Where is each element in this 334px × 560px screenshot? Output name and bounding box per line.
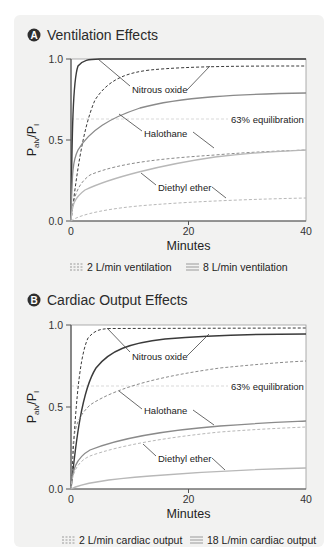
- panel-b-title: Cardiac Output Effects: [47, 292, 188, 308]
- panel-a-x-axis-title: Minutes: [167, 239, 211, 253]
- legend-solid-icon: [190, 537, 203, 543]
- legend-dashed-icon: [70, 264, 83, 270]
- panel-a-ytick-label-05: 0.5: [48, 134, 63, 146]
- figure-svg: A Ventilation Effects 63% equilibration …: [0, 0, 334, 560]
- panel-b-label-nitrous-oxide: Nitrous oxide: [132, 351, 187, 362]
- panel-b-legend: 2 L/min cardiac output 18 L/min cardiac …: [62, 534, 316, 546]
- panel-a-legend-solid-label: 8 L/min ventilation: [203, 261, 288, 273]
- legend-dashed-icon: [62, 537, 75, 543]
- panel-b-ytick-label-05: 0.5: [48, 401, 63, 413]
- panel-b-xtick-label-0: 0: [68, 493, 74, 505]
- badge-a-letter: A: [30, 30, 37, 41]
- panel-b-legend-dashed-label: 2 L/min cardiac output: [79, 534, 182, 546]
- panel-a-label-nitrous-oxide: Nitrous oxide: [132, 84, 187, 95]
- panel-b-label-diethyl-ether: Diethyl ether: [158, 453, 211, 464]
- panel-a-y-axis-title: Palv/PI: [25, 124, 41, 157]
- panel-b-header: B Cardiac Output Effects: [28, 292, 188, 308]
- panel-b-xtick-label-40: 40: [300, 493, 312, 505]
- panel-a-legend-dashed-label: 2 L/min ventilation: [87, 261, 172, 273]
- panel-a-header: A Ventilation Effects: [28, 27, 159, 43]
- panel-a-title: Ventilation Effects: [47, 27, 158, 43]
- svg-text:Palv/PI: Palv/PI: [25, 391, 41, 424]
- svg-text:Palv/PI: Palv/PI: [25, 124, 41, 157]
- panel-b-label-halothane: Halothane: [144, 405, 187, 416]
- panel-a-legend: 2 L/min ventilation 8 L/min ventilation: [70, 261, 288, 273]
- panel-b-ytick-label-0: 0.0: [48, 483, 63, 495]
- panel-a-label-halothane: Halothane: [144, 128, 187, 139]
- panel-a-xtick-label-40: 40: [300, 225, 312, 237]
- panel-a-label-diethyl-ether: Diethyl ether: [158, 182, 211, 193]
- panel-a-ytick-label-1: 1.0: [48, 53, 63, 65]
- panel-a-xtick-label-0: 0: [68, 225, 74, 237]
- panel-a-plot-area: [71, 59, 306, 221]
- panel-a-xtick-label-20: 20: [183, 225, 195, 237]
- panel-b-y-axis-title: Palv/PI: [25, 391, 41, 424]
- panel-b-ytick-label-1: 1.0: [48, 319, 63, 331]
- panel-a-equilibration-label: 63% equilibration: [231, 114, 304, 125]
- panel-b-xtick-label-20: 20: [183, 493, 195, 505]
- panel-a: A Ventilation Effects 63% equilibration …: [25, 27, 312, 273]
- panel-a-ytick-label-0: 0.0: [48, 215, 63, 227]
- panel-b-plot-area: [71, 325, 306, 489]
- panel-b-x-axis-title: Minutes: [167, 507, 211, 521]
- panel-b-legend-solid-label: 18 L/min cardiac output: [207, 534, 316, 546]
- badge-b-letter: B: [30, 295, 37, 306]
- legend-solid-icon: [186, 264, 199, 270]
- panel-b-equilibration-label: 63% equilibration: [231, 381, 304, 392]
- panel-b: B Cardiac Output Effects 63% equilibrati…: [25, 292, 316, 546]
